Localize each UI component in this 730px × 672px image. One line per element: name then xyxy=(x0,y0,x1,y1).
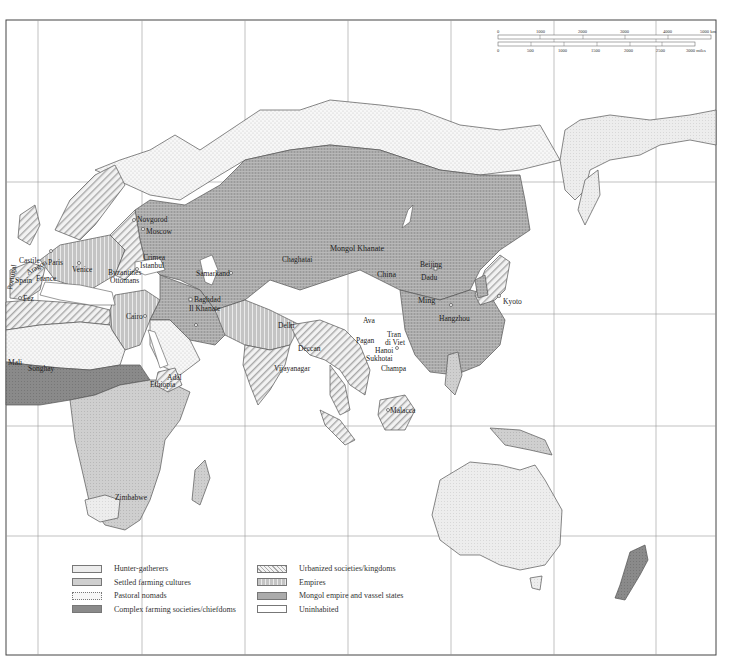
legend-item-hunter-gatherers: Hunter-gatherers xyxy=(72,562,236,576)
legend-swatch-pastoral-nomads xyxy=(72,592,102,600)
scale-mi-3000: 3000 miles xyxy=(686,48,706,53)
region-tasmania xyxy=(530,576,542,590)
label-china: China xyxy=(377,270,397,279)
scale-km-4000: 4000 xyxy=(663,29,673,34)
label-fez: Fez xyxy=(23,294,35,303)
legend-item-settled-farming: Settled farming cultures xyxy=(72,576,236,590)
label-delhi: Delhi xyxy=(278,321,295,330)
scale-mi-2000: 2000 xyxy=(624,48,634,53)
label-zimbabwe: Zimbabwe xyxy=(115,493,148,502)
legend-label: Pastoral nomads xyxy=(114,591,167,600)
map-legend: Hunter-gatherers Settled farming culture… xyxy=(64,562,464,622)
region-sahara xyxy=(6,322,125,370)
legend-swatch-uninhabited xyxy=(257,605,287,613)
label-il-khanate: Il Khanate xyxy=(189,304,221,313)
scale-mi-1500: 1500 xyxy=(591,48,601,53)
label-malacca: Malacca xyxy=(390,406,416,415)
legend-label: Complex farming societies/chiefdoms xyxy=(114,605,236,614)
scale-km-5000: 5000 km xyxy=(700,29,716,34)
scale-mi-500: 500 xyxy=(527,48,535,53)
label-baghdad: Baghdad xyxy=(194,295,221,304)
label-venice: Venice xyxy=(72,265,93,274)
legend-column-left: Hunter-gatherers Settled farming culture… xyxy=(72,562,236,616)
legend-item-uninhabited: Uninhabited xyxy=(257,603,403,617)
label-spain: Spain xyxy=(15,276,32,285)
legend-swatch-complex-farming xyxy=(72,605,102,613)
legend-column-right: Urbanized societies/kingdoms Empires Mon… xyxy=(257,562,403,616)
label-dadu: Dadu xyxy=(421,273,437,282)
legend-item-empires: Empires xyxy=(257,576,403,590)
legend-item-complex-farming: Complex farming societies/chiefdoms xyxy=(72,603,236,617)
label-istanbul: Istanbul xyxy=(140,261,164,270)
scale-km-2000: 2000 xyxy=(578,29,588,34)
label-mali: Mali xyxy=(8,358,22,367)
label-paris: Paris xyxy=(48,258,63,267)
label-ethiopia: Ethiopia xyxy=(150,380,176,389)
label-ming: Ming xyxy=(418,296,435,305)
label-cairo: Cairo xyxy=(126,312,143,321)
label-moscow: Moscow xyxy=(146,227,172,236)
label-kyoto: Kyoto xyxy=(503,297,522,306)
legend-swatch-empires xyxy=(257,578,287,586)
legend-item-pastoral-nomads: Pastoral nomads xyxy=(72,589,236,603)
label-deccan: Deccan xyxy=(298,344,321,353)
label-hangzhou: Hangzhou xyxy=(439,314,470,323)
scale-km-1000: 1000 xyxy=(536,29,546,34)
legend-label: Urbanized societies/kingdoms xyxy=(299,564,396,573)
legend-label: Mongol empire and vassel states xyxy=(299,591,403,600)
label-sukhotai: Sukhotai xyxy=(366,354,393,363)
legend-swatch-settled-farming xyxy=(72,578,102,586)
legend-label: Settled farming cultures xyxy=(114,578,191,587)
label-songhay: Songhay xyxy=(28,364,55,373)
scale-km-3000: 3000 xyxy=(620,29,630,34)
label-ava: Ava xyxy=(363,316,376,325)
legend-label: Empires xyxy=(299,578,326,587)
label-pagan: Pagan xyxy=(356,336,375,345)
label-novgorod: Novgorod xyxy=(137,215,168,224)
label-vijayanagar: Vijayanagar xyxy=(274,364,311,373)
label-ottomans: Ottomans xyxy=(110,276,139,285)
legend-item-urbanized: Urbanized societies/kingdoms xyxy=(257,562,403,576)
legend-item-mongol: Mongol empire and vassel states xyxy=(257,589,403,603)
legend-swatch-mongol xyxy=(257,592,287,600)
label-mongol-khanate: Mongol Khanate xyxy=(330,244,384,253)
scale-mi-2500: 2500 xyxy=(656,48,666,53)
legend-swatch-urbanized xyxy=(257,565,287,573)
label-samarkand: Samarkand xyxy=(196,269,230,278)
scale-mi-1000: 1000 xyxy=(558,48,568,53)
label-france: France xyxy=(36,274,57,283)
label-beijing: Beijing xyxy=(420,260,442,269)
legend-label: Hunter-gatherers xyxy=(114,564,168,573)
legend-swatch-hunter-gatherers xyxy=(72,565,102,573)
label-chaghatai: Chaghatai xyxy=(282,255,312,264)
label-champa: Champa xyxy=(381,364,407,373)
legend-label: Uninhabited xyxy=(299,605,339,614)
